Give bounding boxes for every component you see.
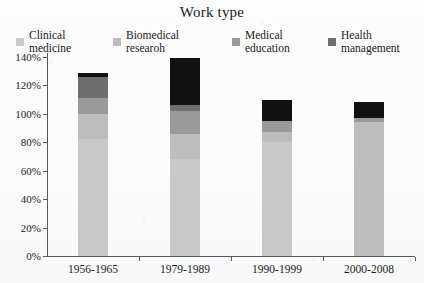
x-axis-tick: [139, 257, 140, 261]
x-axis-tick: [323, 257, 324, 261]
bar-segment: [170, 111, 200, 134]
bar-segment: [170, 58, 200, 105]
bar-segment: [262, 100, 292, 121]
bar-segment: [78, 98, 108, 114]
x-axis-tick-label: 1956-1965: [68, 263, 118, 275]
bar-segment: [78, 139, 108, 256]
bar-segment: [354, 102, 384, 118]
bar-segment: [78, 73, 108, 77]
y-axis-tick-label: 120%: [1, 79, 41, 91]
y-axis-tick-label: 140%: [1, 51, 41, 63]
bar-1990-1999: [262, 100, 292, 256]
bar-2000-2008: [354, 102, 384, 256]
bar-segment: [78, 77, 108, 98]
y-axis-tick: [43, 199, 47, 200]
y-axis-tick: [43, 228, 47, 229]
bar-1956-1965: [78, 73, 108, 256]
bar-1979-1989: [170, 58, 200, 256]
bar-segment: [354, 118, 384, 122]
bar-segment: [262, 121, 292, 132]
y-axis-tick-label: 80%: [1, 136, 41, 148]
bar-segment: [354, 122, 384, 256]
x-axis-tick-label: 1979-1989: [160, 263, 210, 275]
chart-page: Work type Clinical medicineBiomedical re…: [0, 0, 424, 283]
x-axis-tick: [231, 257, 232, 261]
y-axis-tick-label: 100%: [1, 108, 41, 120]
y-axis-tick-label: 60%: [1, 165, 41, 177]
y-axis-tick: [43, 142, 47, 143]
y-axis-tick-label: 0%: [1, 250, 41, 262]
y-axis-tick: [43, 171, 47, 172]
plot-area: 0%20%40%60%80%100%120%140%1956-19651979-…: [0, 0, 424, 283]
bar-segment: [262, 132, 292, 142]
y-axis-tick-label: 40%: [1, 193, 41, 205]
y-axis-tick: [43, 85, 47, 86]
bar-segment: [170, 105, 200, 111]
x-axis-tick: [415, 257, 416, 261]
bar-segment: [170, 134, 200, 160]
y-axis-tick-label: 20%: [1, 222, 41, 234]
y-axis-tick: [43, 57, 47, 58]
y-axis-line: [47, 53, 48, 257]
bar-segment: [170, 159, 200, 256]
y-axis-tick: [43, 256, 47, 257]
bar-segment: [262, 142, 292, 256]
bar-segment: [78, 114, 108, 140]
x-axis-tick-label: 1990-1999: [252, 263, 302, 275]
x-axis-tick-label: 2000-2008: [344, 263, 394, 275]
y-axis-tick: [43, 114, 47, 115]
